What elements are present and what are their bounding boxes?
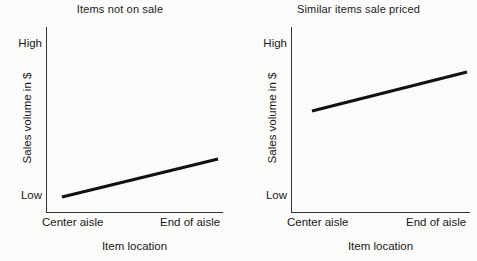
y-axis-line [291, 27, 292, 213]
chart-panel-items-not-on-sale: Items not on sale High Low Center aisle … [0, 0, 240, 261]
panel-title: Similar items sale priced [240, 3, 477, 15]
y-axis-line [46, 27, 47, 213]
x-tick-label-center-aisle: Center aisle [42, 216, 103, 228]
chart-panel-similar-items-sale-priced: Similar items sale priced High Low Cente… [240, 0, 477, 261]
y-tick-label-high: High [0, 37, 42, 49]
y-axis-title: Sales volume in $ [266, 63, 278, 173]
x-axis-line [46, 212, 223, 213]
y-tick-label-low: Low [0, 189, 42, 201]
y-axis-title: Sales volume in $ [21, 63, 33, 173]
two-panel-line-chart-figure: Items not on sale High Low Center aisle … [0, 0, 477, 261]
x-tick-label-end-of-aisle: End of aisle [406, 216, 466, 228]
data-line-similar-items-sale-priced [312, 72, 467, 111]
y-tick-label-low: Low [245, 189, 287, 201]
x-tick-label-end-of-aisle: End of aisle [160, 216, 220, 228]
y-tick-label-high: High [245, 37, 287, 49]
x-tick-label-center-aisle: Center aisle [287, 216, 348, 228]
data-line-items-not-on-sale [62, 159, 218, 197]
x-axis-title: Item location [291, 240, 470, 252]
x-axis-line [291, 212, 470, 213]
x-axis-title: Item location [46, 240, 223, 252]
panel-title: Items not on sale [0, 3, 240, 15]
